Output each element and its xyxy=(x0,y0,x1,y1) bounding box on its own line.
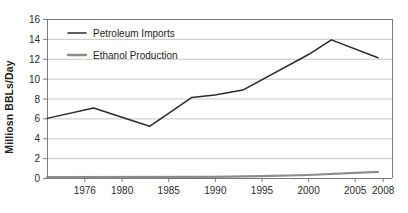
y-axis-ticks: 0246810121416 xyxy=(29,14,47,184)
chart-canvas: 0246810121416 19761980198519901995200020… xyxy=(0,0,408,213)
y-tick-label: 14 xyxy=(29,34,41,45)
y-tick-label: 12 xyxy=(29,54,41,65)
chart-legend: Petroleum ImportsEthanol Production xyxy=(68,28,178,61)
x-tick-label: 2008 xyxy=(372,185,395,196)
x-tick-label: 1995 xyxy=(251,185,274,196)
x-tick-label: 1980 xyxy=(111,185,134,196)
line-chart: Milliosn BBLs/Day 0246810121416 19761980… xyxy=(0,0,408,213)
y-tick-label: 10 xyxy=(29,74,41,85)
x-tick-label: 2005 xyxy=(344,185,367,196)
y-tick-label: 0 xyxy=(34,173,40,184)
x-tick-label: 1985 xyxy=(158,185,181,196)
x-tick-label: 2000 xyxy=(297,185,320,196)
y-tick-label: 6 xyxy=(34,113,40,124)
x-axis-ticks: 19761980198519901995200020052008 xyxy=(74,178,395,196)
y-tick-label: 8 xyxy=(34,94,40,105)
y-tick-label: 16 xyxy=(29,14,41,25)
series-line xyxy=(47,172,378,177)
x-tick-label: 1990 xyxy=(204,185,227,196)
legend-label: Ethanol Production xyxy=(93,50,178,61)
x-tick-label: 1976 xyxy=(74,185,97,196)
y-tick-label: 2 xyxy=(34,153,40,164)
y-tick-label: 4 xyxy=(34,133,40,144)
legend-label: Petroleum Imports xyxy=(93,28,175,39)
